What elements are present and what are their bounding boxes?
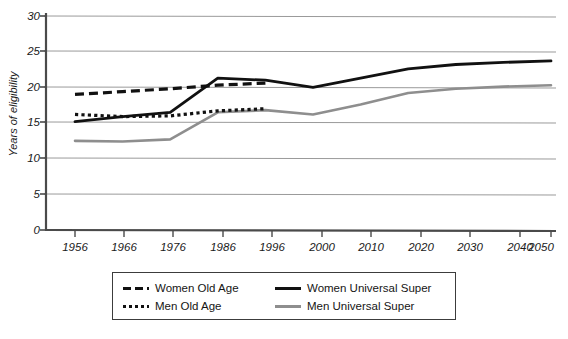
series-lines <box>75 61 551 142</box>
legend-entry-men-universal-super: Men Universal Super <box>275 300 447 312</box>
legend-entry-women-old-age: Women Old Age <box>123 282 275 294</box>
legend-entry-women-universal-super: Women Universal Super <box>275 282 447 294</box>
legend-label-women-old-age: Women Old Age <box>155 282 239 294</box>
legend-swatch-dotted-icon <box>123 301 149 311</box>
legend-swatch-dashed-icon <box>123 283 149 293</box>
series-line-women-old-age <box>75 83 265 94</box>
legend-swatch-solid-gray-icon <box>275 301 301 311</box>
chart-legend: Women Old Age Women Universal Super Men … <box>112 272 456 320</box>
legend-swatch-solid-black-icon <box>275 283 301 293</box>
legend-entry-men-old-age: Men Old Age <box>123 300 275 312</box>
legend-label-men-old-age: Men Old Age <box>155 300 221 312</box>
axis-ticks <box>40 16 551 237</box>
plot-area <box>0 0 568 268</box>
gridlines <box>44 16 556 195</box>
legend-label-women-universal-super: Women Universal Super <box>307 282 431 294</box>
legend-label-men-universal-super: Men Universal Super <box>307 300 414 312</box>
chart-container: Years of eligibility 30 25 20 15 10 5 0 … <box>0 0 568 339</box>
